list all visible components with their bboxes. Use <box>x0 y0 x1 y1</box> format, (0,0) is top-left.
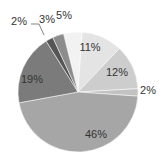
leader-line-2pct <box>31 24 44 35</box>
slice-label-0: 5% <box>56 9 72 21</box>
slice-label-6: 2% <box>11 15 27 27</box>
pie-slices <box>18 32 138 152</box>
slice-label-3: 2% <box>140 84 156 96</box>
pie-slice-4 <box>19 92 138 152</box>
slice-label-4: 46% <box>85 128 107 140</box>
slice-label-1: 11% <box>79 41 100 53</box>
slice-label-7: 3% <box>39 13 55 25</box>
slice-label-5: 19% <box>21 73 43 85</box>
slice-label-2: 12% <box>106 66 128 78</box>
